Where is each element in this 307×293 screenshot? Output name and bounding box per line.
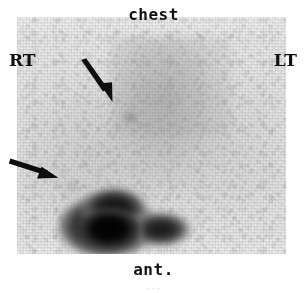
focal-lesion-upper: [120, 109, 140, 126]
footer-artifact-mark: ...: [0, 283, 307, 291]
lateral-arrow-icon: [8, 158, 60, 184]
orientation-label-right: RT: [9, 52, 35, 69]
focal-lesion-lateral: [61, 179, 83, 195]
orientation-label-anterior: ant.: [0, 262, 307, 278]
orientation-label-chest: chest: [0, 7, 307, 23]
scan-field: [17, 17, 286, 254]
liver-core: [77, 207, 147, 251]
upper-arrow-icon: [78, 58, 122, 104]
liver-uptake-region: [51, 185, 201, 254]
orientation-label-left: LT: [274, 52, 297, 69]
scintigram-viewport: chest RT LT ant. ...: [0, 0, 307, 293]
